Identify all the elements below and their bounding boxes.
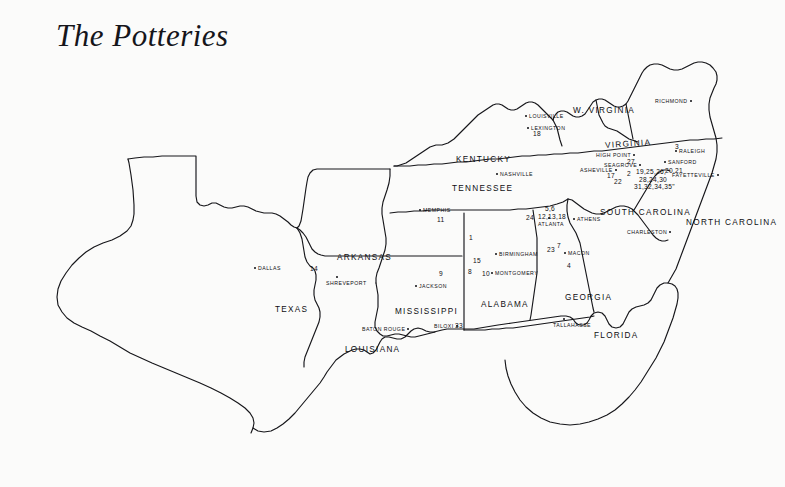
- city-label: LOUISVILLE: [529, 113, 564, 119]
- city-label: ATHENS: [577, 216, 601, 222]
- state-label: W. VIRGINIA: [573, 106, 635, 115]
- city-label: MEMPHIS: [423, 207, 451, 213]
- city-label: DALLAS: [258, 265, 281, 271]
- pottery-number: 5,6: [545, 205, 555, 212]
- border-arkansas-outline: [297, 169, 390, 228]
- city-dot: [407, 328, 409, 330]
- state-label: FLORIDA: [594, 331, 639, 340]
- pottery-number: 24: [526, 214, 534, 221]
- city-label: JACKSON: [419, 283, 447, 289]
- outline-texas-west: [57, 159, 254, 433]
- state-label: ARKANSAS: [337, 253, 392, 262]
- map-outline: [0, 0, 785, 487]
- city-label: TALLAHASSE: [553, 322, 591, 328]
- state-label: LOUISIANA: [345, 345, 400, 354]
- state-label: ALABAMA: [481, 300, 529, 309]
- city-label: ATLANTA: [538, 221, 564, 227]
- city-label: SANFORD: [668, 159, 697, 165]
- border-kentucky-west-virginia: [553, 120, 562, 146]
- city-dot: [669, 231, 671, 233]
- map-page: The Potteries: [0, 0, 785, 487]
- city-dot: [495, 253, 497, 255]
- pottery-number: 4: [567, 262, 571, 269]
- city-label: BIRMINGHAM: [499, 251, 538, 257]
- outline-texas-panhandle: [128, 156, 297, 228]
- city-dot: [633, 154, 635, 156]
- city-label: RICHMOND: [655, 98, 688, 104]
- city-dot: [564, 252, 566, 254]
- pottery-number: 7: [557, 242, 561, 249]
- pottery-number: 31,32,34,35": [634, 183, 675, 190]
- state-label: NORTH CAROLINA: [686, 218, 777, 227]
- state-label: GEORGIA: [565, 293, 612, 302]
- city-dot: [690, 100, 692, 102]
- pottery-number: 1: [469, 234, 473, 241]
- city-label: RALEIGH: [679, 148, 705, 154]
- pottery-number: 9: [439, 270, 443, 277]
- pottery-number: 10: [482, 270, 490, 277]
- state-label: SOUTH CAROLINA: [600, 208, 691, 217]
- pottery-number: 18: [533, 130, 541, 137]
- border-ga-alabama: [530, 210, 537, 320]
- pottery-number: 20,21: [665, 167, 683, 174]
- pottery-number: 22: [614, 178, 622, 185]
- city-label: CHARLESTON: [627, 229, 667, 235]
- city-label: MACON: [568, 250, 590, 256]
- city-dot: [664, 161, 666, 163]
- pottery-number: 28,24,30: [639, 176, 667, 183]
- city-dot: [415, 285, 417, 287]
- city-dot: [496, 173, 498, 175]
- city-dot: [563, 318, 565, 320]
- outline-gulf-coast: [253, 283, 678, 432]
- pottery-number: 23: [547, 246, 555, 253]
- pottery-number: 11: [437, 216, 444, 223]
- city-label: MONTGOMERY: [495, 270, 538, 276]
- border-arkansas-east: [376, 169, 390, 283]
- city-dot: [615, 169, 617, 171]
- city-dot: [525, 115, 527, 117]
- city-dot: [717, 174, 719, 176]
- city-dot: [336, 276, 338, 278]
- state-label: KENTUCKY: [456, 155, 511, 164]
- pottery-number: 14: [310, 265, 318, 272]
- city-dot: [639, 164, 641, 166]
- border-arkansas-south: [297, 228, 462, 256]
- city-label: HIGH POINT: [596, 152, 631, 158]
- pottery-number: 12,13,18: [538, 213, 566, 220]
- city-label: NASHVILLE: [500, 171, 533, 177]
- city-dot: [675, 150, 677, 152]
- state-label: TENNESSEE: [452, 184, 513, 193]
- city-label: SHREVEPORT: [326, 280, 367, 286]
- city-dot: [254, 267, 256, 269]
- state-label: TEXAS: [275, 305, 308, 314]
- border-tennessee-south: [390, 199, 568, 213]
- border-texas-east: [297, 228, 320, 367]
- pottery-number: 15: [473, 257, 481, 264]
- city-dot: [573, 218, 575, 220]
- pottery-number: 3: [675, 143, 679, 150]
- state-label: MISSISSIPPI: [395, 307, 458, 316]
- pottery-number: 2: [627, 170, 631, 177]
- pottery-number: 19,25,26,: [636, 168, 666, 175]
- city-dot: [527, 127, 529, 129]
- pottery-number: 27: [627, 158, 635, 165]
- city-label: BILOXI: [434, 323, 454, 329]
- city-label: BATON ROUGE: [362, 326, 405, 332]
- city-dot: [419, 209, 421, 211]
- pottery-number: 33: [455, 322, 463, 329]
- city-dot: [491, 272, 493, 274]
- pottery-number: 8: [468, 268, 472, 275]
